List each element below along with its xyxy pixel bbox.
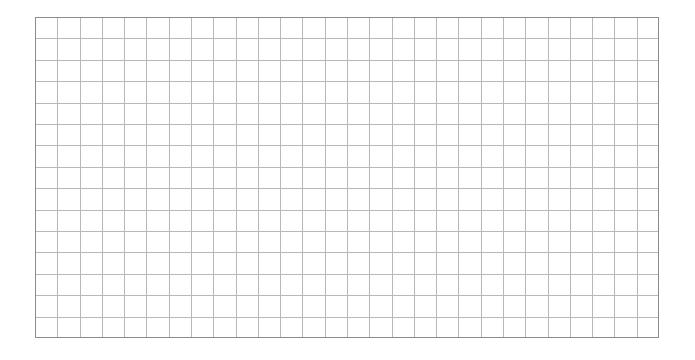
- grid-lines: [35, 17, 659, 338]
- canvas: [0, 0, 695, 360]
- grid-paper: [35, 17, 659, 338]
